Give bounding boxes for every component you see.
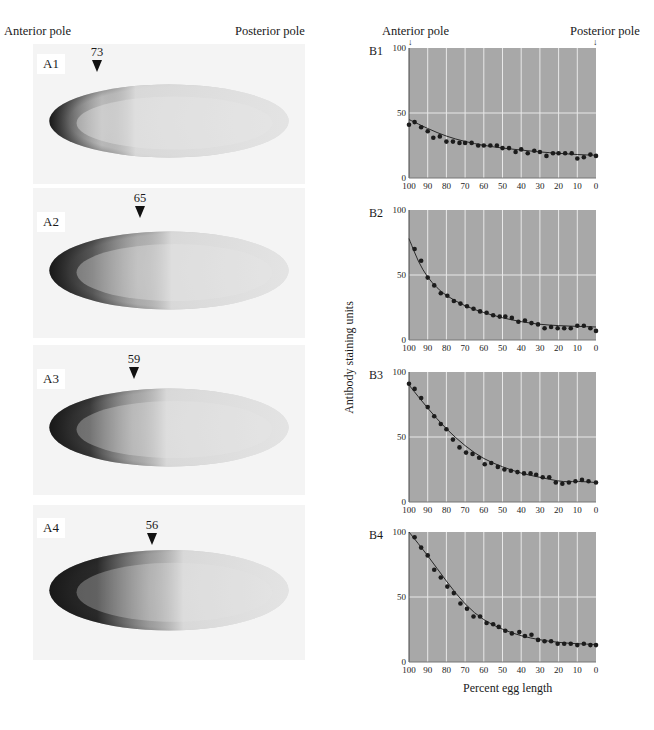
boundary-position-label: 65 bbox=[134, 191, 147, 206]
chart-title-b2: B2 bbox=[369, 206, 383, 221]
svg-text:40: 40 bbox=[517, 665, 527, 675]
panel-tag-a3: A3 bbox=[37, 369, 65, 389]
svg-text:0: 0 bbox=[594, 665, 599, 675]
boundary-position-label: 59 bbox=[128, 352, 141, 367]
panel-tag-a4: A4 bbox=[37, 518, 65, 538]
svg-text:100: 100 bbox=[393, 527, 407, 537]
boundary-position-label: 73 bbox=[91, 45, 104, 60]
svg-text:20: 20 bbox=[554, 665, 564, 675]
boundary-position-label: 56 bbox=[146, 518, 159, 533]
chart-title-b1: B1 bbox=[369, 44, 383, 59]
panel-tag-a2: A2 bbox=[37, 212, 65, 232]
svg-text:80: 80 bbox=[442, 665, 452, 675]
svg-text:50: 50 bbox=[498, 665, 508, 675]
chart-title-b4: B4 bbox=[369, 528, 383, 543]
boundary-arrowhead-icon bbox=[135, 206, 145, 218]
x-axis-label: Percent egg length bbox=[463, 681, 552, 696]
boundary-arrowhead-icon bbox=[129, 367, 139, 379]
chart-title-b3: B3 bbox=[369, 368, 383, 383]
panel-tag-a1: A1 bbox=[37, 54, 65, 74]
svg-text:90: 90 bbox=[423, 665, 433, 675]
svg-text:10: 10 bbox=[573, 665, 583, 675]
svg-text:100: 100 bbox=[402, 665, 416, 675]
boundary-arrowhead-icon bbox=[147, 533, 157, 545]
svg-text:50: 50 bbox=[397, 592, 407, 602]
svg-text:60: 60 bbox=[479, 665, 489, 675]
svg-text:70: 70 bbox=[461, 665, 471, 675]
svg-text:30: 30 bbox=[535, 665, 545, 675]
boundary-arrowhead-icon bbox=[92, 60, 102, 72]
